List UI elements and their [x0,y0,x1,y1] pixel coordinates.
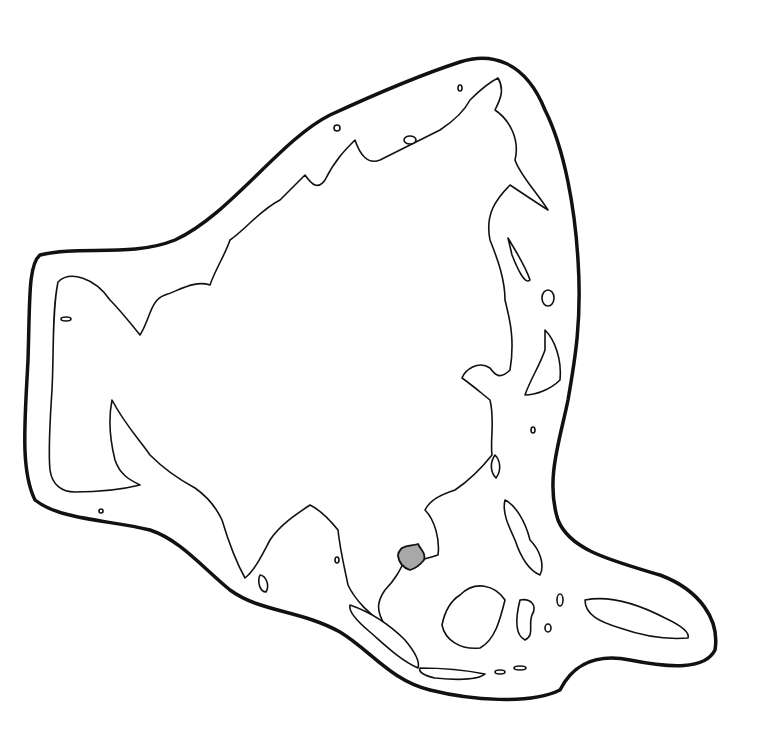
island-small [61,317,71,321]
island-small [545,624,551,632]
taiwan-island [491,455,499,478]
borneo-island [442,586,505,648]
island-small [404,136,416,144]
japan-island [525,330,560,395]
asia-outline-map [0,0,761,738]
sumatra-island [350,605,419,668]
island-small [99,509,103,513]
island-small [495,670,505,674]
asia-mainland-coast [49,78,548,625]
island-small [514,666,526,670]
sri-lanka-island [259,575,268,592]
island-small [531,427,535,433]
island-small [557,594,563,606]
island-small [335,557,339,563]
island-small [334,125,340,131]
new-guinea-island [585,599,688,639]
philippines-islands [504,500,542,575]
island-small [458,85,462,91]
kamchatka-sakhalin [508,238,530,281]
java-island [420,668,485,679]
sulawesi-island [517,600,534,640]
highlighted-country-cambodia [398,544,424,570]
island-small [542,290,554,306]
